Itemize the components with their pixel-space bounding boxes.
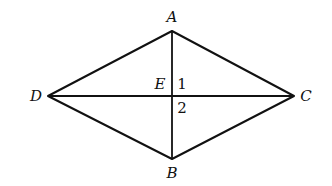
angle-label-1: 1: [177, 75, 187, 93]
vertex-label-e: E: [154, 75, 166, 93]
angle-label-2: 2: [177, 99, 187, 117]
rhombus-outline: [48, 31, 294, 159]
rhombus-diagram: A B C D E 1 2: [0, 0, 332, 186]
vertex-label-c: C: [300, 87, 312, 105]
vertex-label-d: D: [29, 87, 42, 105]
vertex-label-a: A: [165, 8, 178, 26]
vertex-label-b: B: [165, 164, 177, 182]
